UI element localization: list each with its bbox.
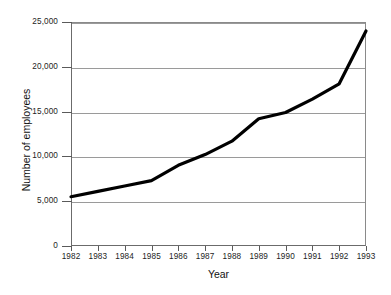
x-tick-1987 [205,246,206,251]
y-tick-label-5000: 5,000 [37,197,58,205]
x-tick-label-1985: 1985 [142,253,161,261]
y-tick-15000 [62,112,72,113]
x-tick-label-1989: 1989 [249,253,268,261]
x-tick-1985 [152,246,153,251]
y-axis-title: Number of employees [20,70,32,210]
x-tick-label-1991: 1991 [303,253,322,261]
x-tick-1984 [125,246,126,251]
x-tick-label-1992: 1992 [330,253,349,261]
y-tick-10000 [62,156,72,157]
x-tick-1989 [259,246,260,251]
x-tick-1986 [178,246,179,251]
series-line-employees [71,31,366,197]
x-tick-1983 [98,246,99,251]
x-tick-label-1990: 1990 [276,253,295,261]
series-employees [71,22,366,246]
x-tick-label-1983: 1983 [88,253,107,261]
x-tick-label-1987: 1987 [196,253,215,261]
x-tick-1993 [366,246,367,251]
y-tick-label-0: 0 [53,242,58,250]
y-tick-label-15000: 15,000 [32,108,58,116]
x-tick-1982 [71,246,72,251]
x-tick-label-1984: 1984 [115,253,134,261]
x-axis-title: Year [71,268,366,280]
x-tick-label-1993: 1993 [357,253,376,261]
x-tick-1988 [232,246,233,251]
y-tick-5000 [62,201,72,202]
x-tick-label-1986: 1986 [169,253,188,261]
x-tick-1991 [312,246,313,251]
y-tick-label-25000: 25,000 [32,18,58,26]
x-tick-1992 [339,246,340,251]
y-tick-25000 [62,22,72,23]
x-tick-1990 [286,246,287,251]
x-tick-label-1988: 1988 [223,253,242,261]
x-tick-label-1982: 1982 [62,253,81,261]
y-tick-20000 [62,67,72,68]
y-tick-label-20000: 20,000 [32,63,58,71]
employee-growth-line-chart: 25,000 20,000 15,000 10,000 5,000 0 1982… [0,0,391,295]
y-tick-label-10000: 10,000 [32,152,58,160]
